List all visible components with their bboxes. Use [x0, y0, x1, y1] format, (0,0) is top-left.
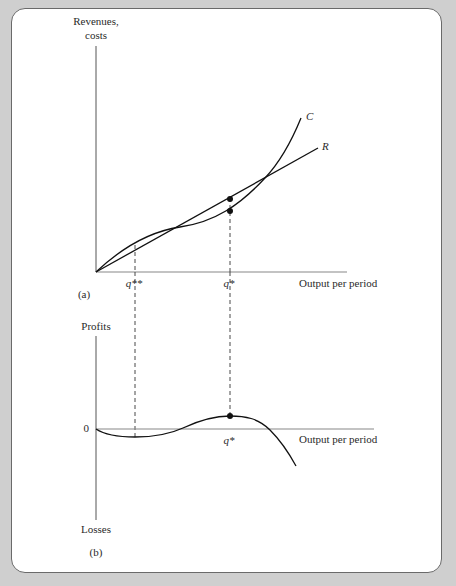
panel-b: Profits 0 q* Output per period Losses (b…: [81, 272, 378, 559]
panel-a-label: (a): [78, 288, 91, 301]
y-axis-label-line2: costs: [85, 29, 107, 41]
zero-label: 0: [84, 422, 90, 434]
x-axis-label-b: Output per period: [299, 433, 378, 445]
tick-q-star: q*: [224, 277, 236, 289]
y-axis-label-profits: Profits: [81, 320, 110, 332]
tick-q-star-b: q*: [224, 434, 236, 446]
panel-a: Revenues, costs C R q** q* Output per pe…: [73, 15, 377, 301]
tick-q-double-star: q**: [126, 277, 143, 289]
y-axis-label-line1: Revenues,: [73, 15, 119, 27]
revenue-line-r: [96, 148, 318, 272]
profit-curve: [96, 416, 296, 466]
point-r-at-q1: [227, 196, 233, 202]
profit-max-point: [227, 413, 233, 419]
cost-curve-c: [96, 118, 301, 272]
point-c-at-q1: [227, 208, 233, 214]
x-axis-label: Output per period: [299, 277, 378, 289]
panel-b-label: (b): [90, 546, 103, 559]
curve-r-label: R: [321, 140, 329, 152]
figure-svg: Revenues, costs C R q** q* Output per pe…: [0, 0, 456, 586]
y-axis-label-losses: Losses: [81, 523, 111, 535]
curve-c-label: C: [306, 110, 314, 122]
